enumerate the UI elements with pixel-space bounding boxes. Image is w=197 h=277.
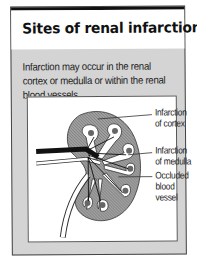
title-bar: Sites of renal infarction (11, 9, 184, 49)
label-occluded-vessel: Occluded blood vessel (155, 169, 188, 202)
card-title: Sites of renal infarction (22, 19, 197, 36)
label-cortex: Infarction of cortex (155, 106, 187, 128)
kidney-illustration: Infarction of cortex Infarction of medul… (27, 95, 178, 242)
info-card: Sites of renal infarction Infarction may… (10, 5, 187, 255)
label-medulla: Infarction of medulla (155, 144, 191, 166)
